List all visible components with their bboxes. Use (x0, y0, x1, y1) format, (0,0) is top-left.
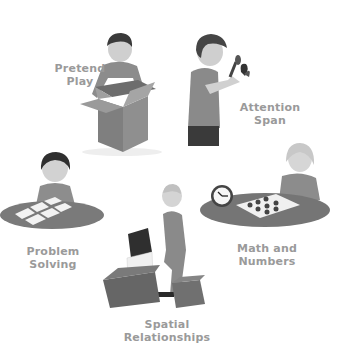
label-problem-solving: Problem Solving (22, 245, 84, 271)
math-and-numbers-figure (200, 143, 330, 227)
label-line: Problem (22, 245, 84, 258)
label-line: Play (52, 75, 108, 88)
label-pretend-play: Pretend Play (52, 62, 108, 88)
attention-span-figure (188, 34, 250, 146)
illustration-scene (0, 0, 346, 364)
label-line: Pretend (52, 62, 108, 75)
pretend-play-figure (80, 33, 162, 156)
label-line: Span (238, 114, 302, 127)
label-math-and-numbers: Math and Numbers (232, 242, 302, 268)
problem-solving-figure (0, 152, 104, 229)
label-line: Math and (232, 242, 302, 255)
label-line: Solving (22, 258, 84, 271)
label-line: Numbers (232, 255, 302, 268)
label-attention-span: Attention Span (238, 101, 302, 127)
label-line: Attention (238, 101, 302, 114)
label-spatial-relationships: Spatial Relationships (122, 318, 212, 344)
spatial-relationships-figure (103, 184, 205, 308)
label-line: Relationships (122, 331, 212, 344)
label-line: Spatial (122, 318, 212, 331)
